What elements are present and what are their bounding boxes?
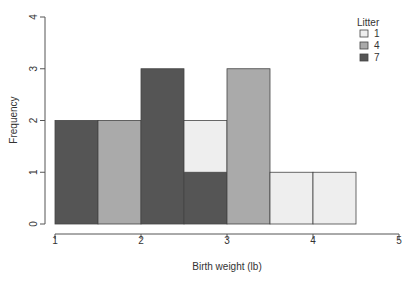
x-tick-label: 5 xyxy=(396,235,402,246)
y-tick-label: 4 xyxy=(28,14,39,20)
legend-title: Litter xyxy=(357,17,380,28)
bar-litter-1 xyxy=(313,172,356,224)
y-tick-label: 2 xyxy=(28,117,39,123)
legend-swatch-4 xyxy=(360,42,368,49)
legend-label: 1 xyxy=(374,28,380,39)
x-tick-label: 2 xyxy=(138,235,144,246)
y-axis-label: Frequency xyxy=(8,96,19,143)
legend-swatch-7 xyxy=(360,54,368,61)
x-tick-label: 4 xyxy=(310,235,316,246)
x-tick-label: 1 xyxy=(52,235,58,246)
bar-litter-1 xyxy=(184,121,227,173)
histogram-chart: 01234 12345 Birth weight (lb) Frequency … xyxy=(0,0,414,281)
legend-swatch-1 xyxy=(360,30,368,37)
legend-label: 4 xyxy=(374,40,380,51)
y-ticks: 01234 xyxy=(28,14,45,227)
bar-litter-4 xyxy=(98,121,141,225)
bar-litter-7 xyxy=(184,172,227,224)
x-axis-label: Birth weight (lb) xyxy=(192,261,261,272)
legend: Litter 147 xyxy=(357,17,380,63)
bar-litter-1 xyxy=(270,172,313,224)
bar-litter-4 xyxy=(227,69,270,224)
bar-litter-7 xyxy=(141,69,184,224)
legend-label: 7 xyxy=(374,52,380,63)
y-tick-label: 1 xyxy=(28,169,39,175)
x-tick-label: 3 xyxy=(224,235,230,246)
y-tick-label: 0 xyxy=(28,221,39,227)
y-tick-label: 3 xyxy=(28,66,39,72)
x-ticks: 12345 xyxy=(52,234,402,246)
bar-litter-7 xyxy=(55,121,98,225)
bars-group xyxy=(55,69,356,224)
